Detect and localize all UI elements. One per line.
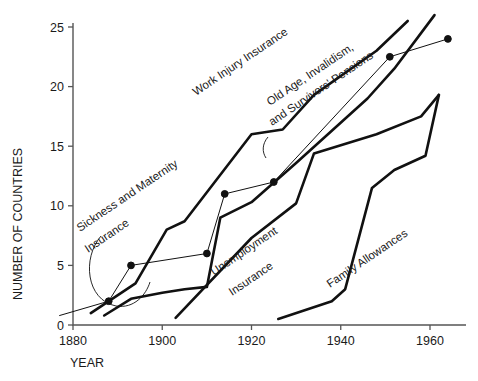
data-point-marker bbox=[221, 191, 228, 198]
x-axis-title: YEAR bbox=[70, 356, 104, 370]
line-chart-canvas: 0510152025 18801900192019401960 Work Inj… bbox=[0, 0, 478, 381]
x-tick-label: 1960 bbox=[416, 334, 444, 348]
y-tick-label: 10 bbox=[50, 199, 64, 213]
y-axis-title-text: NUMBER OF COUNTRIES bbox=[11, 148, 25, 300]
x-tick-label: 1940 bbox=[327, 334, 355, 348]
y-tick-label: 20 bbox=[50, 80, 64, 94]
data-point-marker bbox=[128, 262, 135, 269]
y-tick-label: 15 bbox=[50, 140, 64, 154]
data-point-marker bbox=[270, 179, 277, 186]
y-tick-label: 5 bbox=[57, 259, 64, 273]
y-axis-title: NUMBER OF COUNTRIES bbox=[11, 148, 25, 300]
chart-figure: 0510152025 18801900192019401960 Work Inj… bbox=[0, 0, 478, 381]
y-tick-label: 0 bbox=[57, 319, 64, 333]
y-tick-label: 25 bbox=[50, 21, 64, 35]
data-point-marker bbox=[386, 53, 393, 60]
data-point-marker bbox=[445, 36, 452, 43]
x-tick-label: 1920 bbox=[238, 334, 266, 348]
x-axis-title-text: YEAR bbox=[70, 356, 104, 370]
data-point-marker bbox=[204, 250, 211, 257]
x-tick-label: 1900 bbox=[148, 334, 176, 348]
x-tick-label: 1880 bbox=[59, 334, 87, 348]
